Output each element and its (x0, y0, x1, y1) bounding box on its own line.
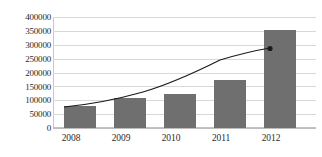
x-axis-tick-label-2011: 2011 (196, 133, 246, 143)
gridline (53, 17, 316, 18)
y-axis-tick-label: 200000 (1, 69, 51, 78)
bar-2012 (264, 30, 296, 128)
y-axis-tick-label: 50000 (1, 110, 51, 119)
y-axis-labels: 400000 350000 300000 250000 200000 15000… (0, 0, 51, 157)
y-axis-tick-label: 150000 (1, 83, 51, 92)
bar-2008 (64, 106, 96, 128)
x-axis-tick-label-2010: 2010 (146, 133, 196, 143)
y-axis-tick-label: 300000 (1, 41, 51, 50)
x-axis-line (53, 128, 316, 129)
bar-2009 (114, 98, 146, 128)
plot-area (53, 17, 316, 128)
bar-2011 (214, 80, 246, 128)
y-axis-tick-label: 250000 (1, 55, 51, 64)
y-axis-tick-label: 100000 (1, 96, 51, 105)
y-axis-tick-label: 350000 (1, 27, 51, 36)
y-axis-tick-label: 0 (1, 124, 51, 133)
bar-2010 (164, 94, 196, 128)
x-axis-tick-label-2012: 2012 (246, 133, 296, 143)
x-axis-tick-label-2008: 2008 (46, 133, 96, 143)
y-axis-tick-label: 400000 (1, 13, 51, 22)
bar-chart: 400000 350000 300000 250000 200000 15000… (0, 0, 322, 157)
x-axis-tick-label-2009: 2009 (96, 133, 146, 143)
